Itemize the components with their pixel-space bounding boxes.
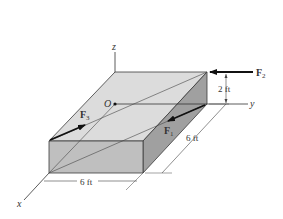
origin-point <box>113 102 116 105</box>
dim-width-label: 6 ft <box>80 177 93 187</box>
statics-block-diagram: z O y x F2 F1 F3 2 ft 6 ft 6 ft <box>0 0 283 219</box>
block-front-face <box>49 141 143 173</box>
dim-width-ext <box>126 173 143 190</box>
y-axis-label: y <box>249 98 255 109</box>
x-axis-label: x <box>16 198 22 209</box>
dim-length-label: 6 ft <box>186 133 199 143</box>
force-f2-label: F2 <box>256 67 266 80</box>
x-axis <box>24 173 49 200</box>
origin-label: O <box>104 98 111 109</box>
dim-height-label: 2 ft <box>218 84 231 94</box>
z-axis-label: z <box>111 41 116 52</box>
